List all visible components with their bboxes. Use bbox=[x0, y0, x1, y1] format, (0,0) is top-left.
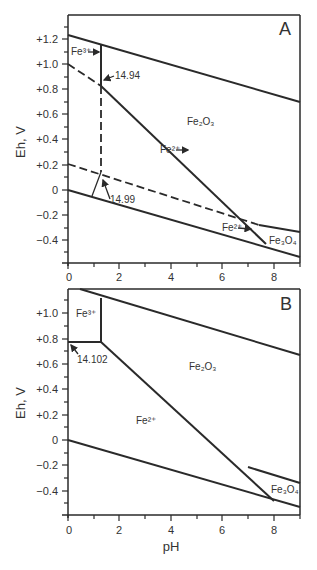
ytick-label: +0.2 bbox=[36, 409, 58, 421]
xtick-label: 6 bbox=[219, 524, 225, 536]
ytick-label: +0.6 bbox=[36, 108, 58, 120]
xtick-label: 2 bbox=[116, 271, 122, 283]
panel-b-x-ticks bbox=[68, 515, 300, 521]
xtick-label: 0 bbox=[66, 271, 72, 283]
panel-a-1499-connector bbox=[92, 172, 101, 196]
panel-b-y-tick-labels: +1.0 +0.8 +0.6 +0.4 +0.2 0 −0.2 −0.4 bbox=[36, 307, 58, 497]
panel-a-dashed-1499 bbox=[68, 164, 259, 225]
ytick-label: 0 bbox=[52, 184, 58, 196]
arrow-icon bbox=[103, 180, 110, 199]
panel-a-letter: A bbox=[279, 19, 291, 39]
xtick-label: 8 bbox=[271, 271, 277, 283]
panel-b-upper-water-line bbox=[80, 289, 300, 355]
panel-a-y-ticks bbox=[62, 27, 68, 252]
ytick-label: −0.4 bbox=[36, 234, 58, 246]
panel-a-upper-water-line bbox=[68, 35, 300, 102]
ytick-label: +0.4 bbox=[36, 383, 58, 395]
panel-a-y-tick-labels: +1.2 +1.0 +0.8 +0.6 +0.4 +0.2 0 −0.2 −0.… bbox=[36, 33, 58, 246]
panel-b-label-14-102: 14.102 bbox=[77, 354, 108, 365]
xtick-label: 4 bbox=[168, 524, 174, 536]
eh-ph-diagrams: +1.2 +1.0 +0.8 +0.6 +0.4 +0.2 0 −0.2 −0.… bbox=[0, 0, 317, 570]
panel-a-x-ticks bbox=[68, 263, 300, 269]
panel-b: +1.0 +0.8 +0.6 +0.4 +0.2 0 −0.2 −0.4 Eh,… bbox=[13, 289, 300, 554]
ytick-label: +1.0 bbox=[36, 58, 58, 70]
panel-a-x-tick-labels: 0 2 4 6 8 bbox=[66, 271, 277, 283]
panel-a-y-axis-label: Eh, V bbox=[13, 126, 28, 158]
panel-b-letter: B bbox=[280, 294, 292, 314]
xtick-label: 2 bbox=[116, 524, 122, 536]
arrow-icon bbox=[104, 76, 114, 80]
ytick-label: +1.2 bbox=[36, 33, 58, 45]
panel-a-lower-water-line bbox=[68, 190, 300, 257]
panel-b-lower-water-line bbox=[68, 440, 300, 507]
panel-a-dashed-fe3-fe2 bbox=[68, 64, 101, 86]
panel-a-label-fe3o4: Fe₃O₄ bbox=[269, 235, 297, 246]
panel-a-label-fe2o3: Fe₂O₃ bbox=[187, 116, 214, 127]
panel-b-fe2o3-fe3o4-line bbox=[248, 467, 300, 483]
arrow-icon bbox=[71, 345, 78, 354]
panel-a-fe2-fe2o3-line bbox=[101, 86, 266, 244]
ytick-label: +0.8 bbox=[36, 333, 58, 345]
ytick-label: +0.8 bbox=[36, 83, 58, 95]
ytick-label: −0.2 bbox=[36, 459, 58, 471]
panel-b-label-fe2: Fe²⁺ bbox=[136, 415, 156, 426]
ytick-label: +0.2 bbox=[36, 159, 58, 171]
xtick-label: 8 bbox=[271, 524, 277, 536]
ytick-label: −0.4 bbox=[36, 485, 58, 497]
panel-b-fe2-fe2o3-line bbox=[101, 342, 274, 501]
panel-a-label-14-99: 14.99 bbox=[110, 194, 135, 205]
panel-b-x-tick-labels: 0 2 4 6 8 bbox=[66, 524, 277, 536]
panel-b-label-fe2o3: Fe₂O₃ bbox=[189, 361, 216, 372]
ytick-label: +1.0 bbox=[36, 307, 58, 319]
panel-b-y-axis-label: Eh, V bbox=[13, 387, 28, 419]
xtick-label: 4 bbox=[168, 271, 174, 283]
ytick-label: +0.6 bbox=[36, 358, 58, 370]
ytick-label: −0.2 bbox=[36, 209, 58, 221]
panel-b-label-fe3o4: Fe₃O₄ bbox=[271, 484, 299, 495]
panel-b-x-axis-label: pH bbox=[163, 539, 180, 554]
panel-a-fe2o3-fe3o4-line bbox=[259, 225, 300, 232]
panel-b-label-fe3: Fe³⁺ bbox=[76, 308, 96, 319]
xtick-label: 6 bbox=[219, 271, 225, 283]
panel-a-label-14-94: 14.94 bbox=[115, 70, 140, 81]
panel-b-y-ticks bbox=[62, 300, 68, 503]
panel-a: +1.2 +1.0 +0.8 +0.6 +0.4 +0.2 0 −0.2 −0.… bbox=[13, 15, 300, 283]
xtick-label: 0 bbox=[66, 524, 72, 536]
ytick-label: +0.4 bbox=[36, 133, 58, 145]
ytick-label: 0 bbox=[52, 434, 58, 446]
